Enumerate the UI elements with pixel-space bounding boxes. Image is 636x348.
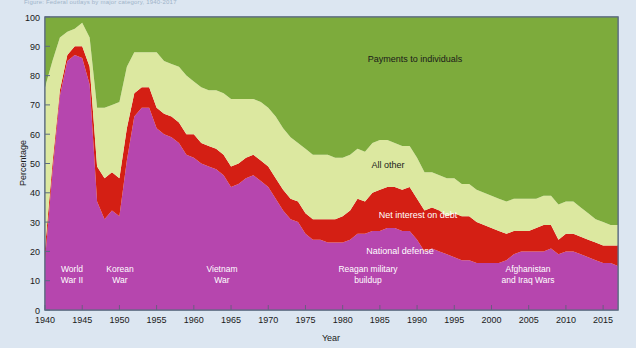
era-label-line: and Iraq Wars — [501, 275, 554, 285]
x-tick-label: 1955 — [147, 315, 167, 325]
x-tick-label: 2015 — [593, 315, 613, 325]
x-axis-label: Year — [322, 333, 340, 343]
era-label-line: World — [61, 264, 83, 274]
era-label-line: Vietnam — [206, 264, 237, 274]
y-tick-label: 90 — [30, 42, 40, 52]
x-tick-label: 1975 — [295, 315, 315, 325]
x-tick-label: 1940 — [35, 315, 55, 325]
era-label-world-war-ii: WorldWar II — [61, 264, 83, 285]
y-tick-label: 80 — [30, 71, 40, 81]
era-label-line: War II — [61, 275, 83, 285]
y-tick-label: 100 — [25, 13, 40, 23]
era-label-line: buildup — [354, 275, 382, 285]
era-label-line: Korean — [106, 264, 134, 274]
y-tick-label: 70 — [30, 100, 40, 110]
era-label-line: Reagan military — [338, 264, 398, 274]
y-tick-label: 30 — [30, 218, 40, 228]
y-tick-label: 0 — [35, 306, 40, 316]
y-tick-label: 60 — [30, 130, 40, 140]
series-label-national-defense: National defense — [366, 246, 434, 256]
series-label-net-interest-on-debt: Net interest on debt — [379, 210, 458, 220]
stacked-area-chart: 0102030405060708090100 19401945195019551… — [0, 0, 636, 348]
x-tick-label: 2005 — [519, 315, 539, 325]
era-label-line: War — [214, 275, 229, 285]
top-caption: Figure: Federal outlays by major categor… — [24, 0, 177, 5]
series-label-all-other: All other — [371, 160, 404, 170]
x-tick-label: 1950 — [109, 315, 129, 325]
era-label-line: Afghanistan — [506, 264, 551, 274]
x-tick-label: 2000 — [481, 315, 501, 325]
x-tick-label: 1970 — [258, 315, 278, 325]
y-tick-label: 20 — [30, 247, 40, 257]
era-label-line: War — [112, 275, 127, 285]
x-tick-label: 1995 — [444, 315, 464, 325]
x-tick-label: 1980 — [333, 315, 353, 325]
x-tick-label: 1985 — [370, 315, 390, 325]
y-tick-label: 10 — [30, 276, 40, 286]
y-tick-label: 50 — [30, 159, 40, 169]
y-axis-label: Percentage — [18, 140, 28, 186]
x-tick-label: 1945 — [72, 315, 92, 325]
era-label-afghanistan-and-iraq-wars: Afghanistanand Iraq Wars — [501, 264, 554, 285]
y-tick-label: 40 — [30, 188, 40, 198]
x-tick-label: 1990 — [407, 315, 427, 325]
x-tick-label: 1960 — [184, 315, 204, 325]
x-tick-label: 2010 — [556, 315, 576, 325]
x-tick-label: 1965 — [221, 315, 241, 325]
series-label-payments-to-individuals: Payments to individuals — [368, 54, 463, 64]
figure-container: Figure: Federal outlays by major categor… — [0, 0, 636, 348]
